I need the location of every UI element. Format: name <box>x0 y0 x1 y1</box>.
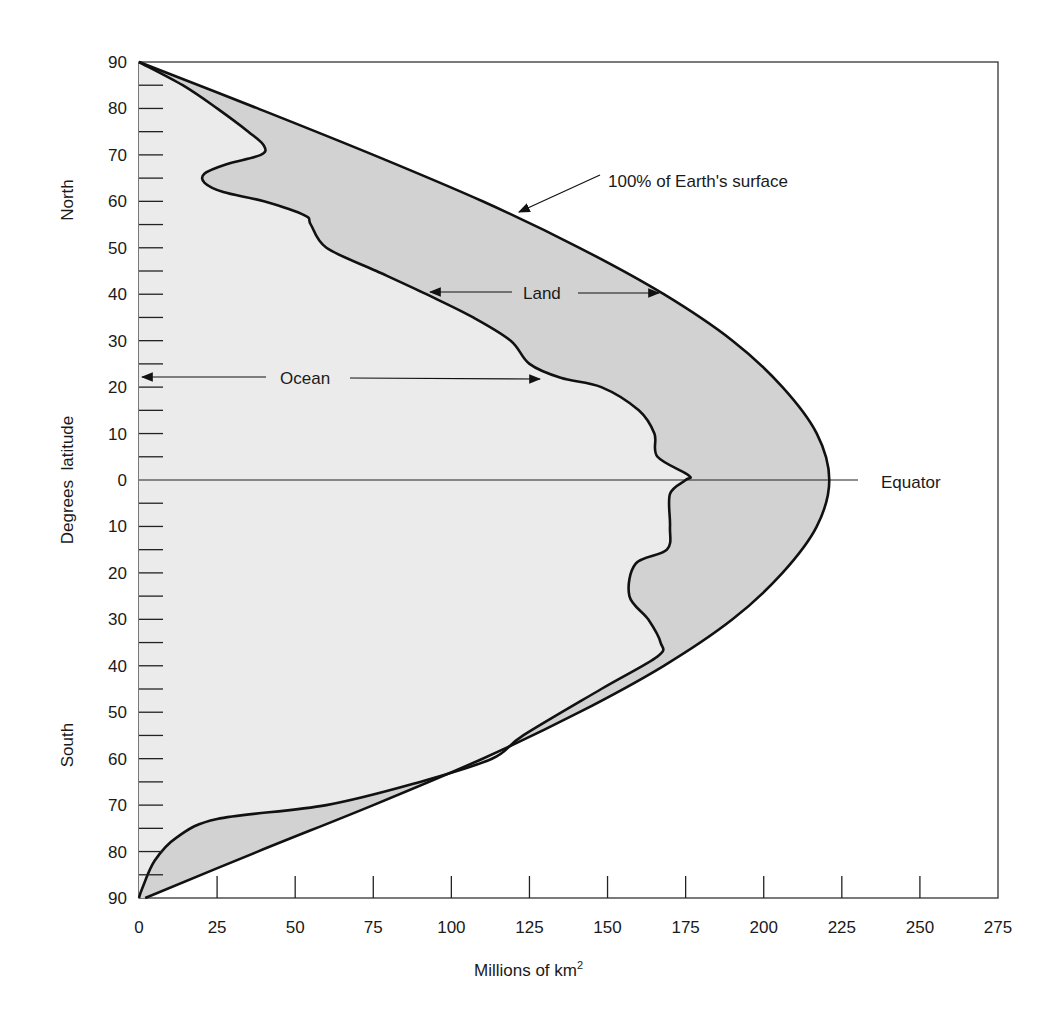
y-label-north: North <box>58 179 77 221</box>
y-tick-label: 20 <box>108 564 127 583</box>
x-tick-label: 25 <box>208 918 227 937</box>
y-tick-label: 30 <box>108 610 127 629</box>
y-tick-label: 70 <box>108 146 127 165</box>
ocean-label: Ocean <box>280 369 330 388</box>
y-tick-label: 0 <box>118 471 127 490</box>
land-label: Land <box>523 284 561 303</box>
x-tick-label: 175 <box>671 918 699 937</box>
x-tick-label: 275 <box>984 918 1012 937</box>
x-tick-label: 200 <box>750 918 778 937</box>
y-tick-label: 60 <box>108 192 127 211</box>
y-tick-label: 50 <box>108 703 127 722</box>
x-tick-label: 150 <box>593 918 621 937</box>
y-tick-label: 40 <box>108 285 127 304</box>
y-label-south: South <box>58 723 77 767</box>
chart: 9080706050403020100102030405060708090 02… <box>0 0 1055 1021</box>
surface-arrow <box>519 175 600 212</box>
y-tick-label: 90 <box>108 53 127 72</box>
y-tick-label: 20 <box>108 378 127 397</box>
y-axis-title: Degrees latitude <box>58 416 77 545</box>
y-tick-label: 70 <box>108 796 127 815</box>
x-tick-label: 225 <box>828 918 856 937</box>
x-axis-title-sup: 2 <box>577 959 583 971</box>
y-tick-label: 30 <box>108 332 127 351</box>
x-tick-label: 125 <box>515 918 543 937</box>
y-tick-label: 10 <box>108 517 127 536</box>
surface-annotation: 100% of Earth's surface <box>519 172 788 212</box>
x-tick-label: 250 <box>906 918 934 937</box>
x-axis-title-text: Millions of km <box>474 961 577 980</box>
y-tick-label: 90 <box>108 889 127 908</box>
x-axis-title: Millions of km2 <box>474 959 583 980</box>
y-tick-label: 40 <box>108 657 127 676</box>
y-tick-label: 60 <box>108 750 127 769</box>
x-tick-label: 75 <box>364 918 383 937</box>
x-tick-label: 100 <box>437 918 465 937</box>
x-axis-ticks: 0255075100125150175200225250275 <box>134 876 1012 937</box>
y-tick-label: 80 <box>108 99 127 118</box>
surface-label: 100% of Earth's surface <box>608 172 788 191</box>
x-tick-label: 50 <box>286 918 305 937</box>
y-tick-label: 80 <box>108 843 127 862</box>
x-tick-label: 0 <box>134 918 143 937</box>
equator-label: Equator <box>881 473 941 492</box>
y-tick-label: 10 <box>108 425 127 444</box>
y-tick-label: 50 <box>108 239 127 258</box>
